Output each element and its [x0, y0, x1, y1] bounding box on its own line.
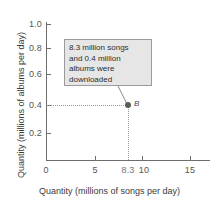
- x-tick-label-5: 5: [82, 165, 108, 175]
- y-axis-title: Quantity (millions of albums per day): [16, 32, 26, 178]
- x-axis-line: [46, 160, 210, 161]
- y-axis-line: [46, 22, 47, 161]
- annotation-line-4: downloaded: [69, 75, 151, 86]
- x-tick-mark-15: [190, 156, 191, 160]
- y-tick-mark-1.0: [47, 24, 51, 25]
- y-tick-mark-0.8: [47, 48, 51, 49]
- y-tick-mark-0.2: [47, 133, 51, 134]
- annotation-line-2: and 0.4 million: [69, 54, 151, 65]
- x-tick-mark-10: [142, 156, 143, 160]
- annotation-callout: 8.3 million songs and 0.4 million albums…: [64, 39, 152, 86]
- x-tick-label-15: 15: [177, 165, 203, 175]
- guide-line-vertical-8.3: [128, 105, 129, 160]
- y-tick-label-1.0: 1.0: [16, 19, 42, 29]
- y-tick-mark-0.6: [47, 74, 51, 75]
- annotation-line-3: albums were: [69, 64, 151, 75]
- data-point-b: [125, 102, 131, 108]
- annotation-line-1: 8.3 million songs: [69, 43, 151, 54]
- x-tick-label-10: 10: [131, 165, 157, 175]
- guide-line-horizontal-0.4: [47, 105, 128, 106]
- x-axis-title: Quantity (millions of songs per day): [0, 186, 219, 196]
- scatter-chart: 1.0 0.8 0.6 0.4 0.2 0 5 8.3 10 15 8.3 mi…: [0, 0, 219, 206]
- x-tick-label-0: 0: [33, 165, 59, 175]
- data-point-b-label: B: [134, 99, 139, 108]
- x-tick-mark-5: [95, 156, 96, 160]
